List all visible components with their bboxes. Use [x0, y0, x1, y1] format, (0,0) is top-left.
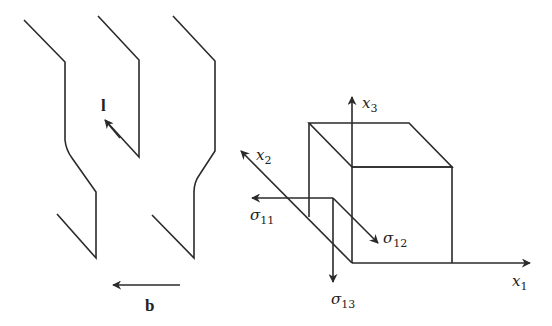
sigma12-label: σ12	[383, 229, 407, 250]
x1-label: x1	[512, 272, 527, 293]
diagram-canvas: l b x3 x1 x2 σ11 σ12 σ13	[0, 0, 552, 326]
stress-cube-figure: x3 x1 x2 σ11 σ12 σ13	[241, 94, 530, 311]
cube-top-face	[309, 123, 452, 167]
line-direction-label: l	[101, 96, 106, 115]
x3-label: x3	[362, 94, 377, 115]
dislocation-line-3	[152, 16, 215, 258]
burgers-vector-label: b	[145, 296, 154, 315]
dislocation-line-1	[24, 20, 96, 258]
dislocation-figure: l b	[24, 16, 215, 315]
sigma12-arrow	[333, 198, 378, 243]
sigma11-label: σ11	[250, 206, 274, 227]
line-direction-arrow	[105, 120, 120, 138]
x2-label: x2	[256, 146, 271, 167]
sigma13-label: σ13	[331, 290, 355, 311]
